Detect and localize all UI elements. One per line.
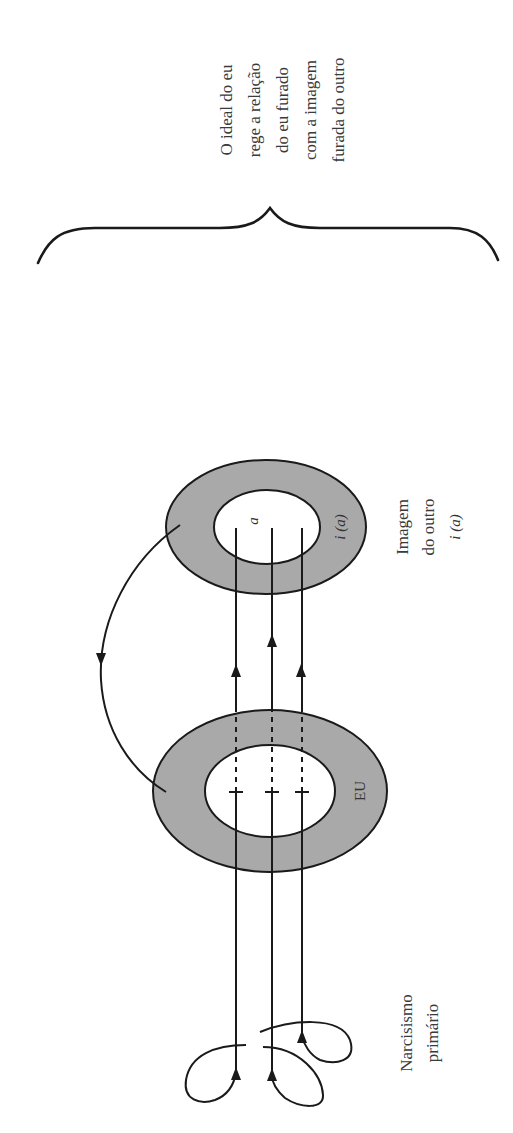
svg-text:O ideal do eu: O ideal do eu [217,64,236,156]
svg-text:primário: primário [423,1004,442,1063]
svg-text:Narcisismo: Narcisismo [397,994,416,1071]
arrow-up-icon [267,634,277,647]
narcissism-loops [186,1022,352,1106]
svg-text:do outro: do outro [419,498,438,555]
annotation-text: O ideal do eu rege a relação do eu furad… [217,58,348,163]
hole-label-a: a [245,517,261,525]
curly-brace [38,208,498,263]
arrow-up-icon [231,1067,241,1080]
svg-text:furada do outro: furada do outro [329,58,348,163]
svg-text:Imagem: Imagem [393,499,412,555]
arrow-down-icon [96,653,106,666]
up-arrows [231,634,306,677]
svg-text:com a imagem: com a imagem [301,60,320,160]
diagram-canvas: O ideal do eu rege a relação do eu furad… [0,0,513,1133]
svg-text:do eu furado: do eu furado [273,67,292,153]
primary-narcissism-caption: Narcisismo primário [397,994,442,1071]
libido-lines [229,528,309,1075]
ring-label-eu: EU [352,781,368,801]
ring-label-ia: i (a) [332,514,349,539]
arrow-up-icon [231,664,241,677]
other-image-caption: Imagem do outro i (a) [393,498,464,555]
arrow-up-icon [297,1030,307,1043]
arrow-up-icon [296,664,306,677]
svg-text:i (a): i (a) [447,514,464,539]
arrow-up-icon [267,1068,277,1081]
svg-text:rege a relação: rege a relação [245,63,264,157]
